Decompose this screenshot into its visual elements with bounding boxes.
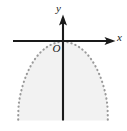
figure-canvas: y x O <box>0 0 127 131</box>
x-axis-label: x <box>116 31 122 43</box>
parabola-figure: y x O <box>0 0 127 131</box>
origin-label: O <box>53 42 61 54</box>
y-axis-label: y <box>55 2 61 14</box>
